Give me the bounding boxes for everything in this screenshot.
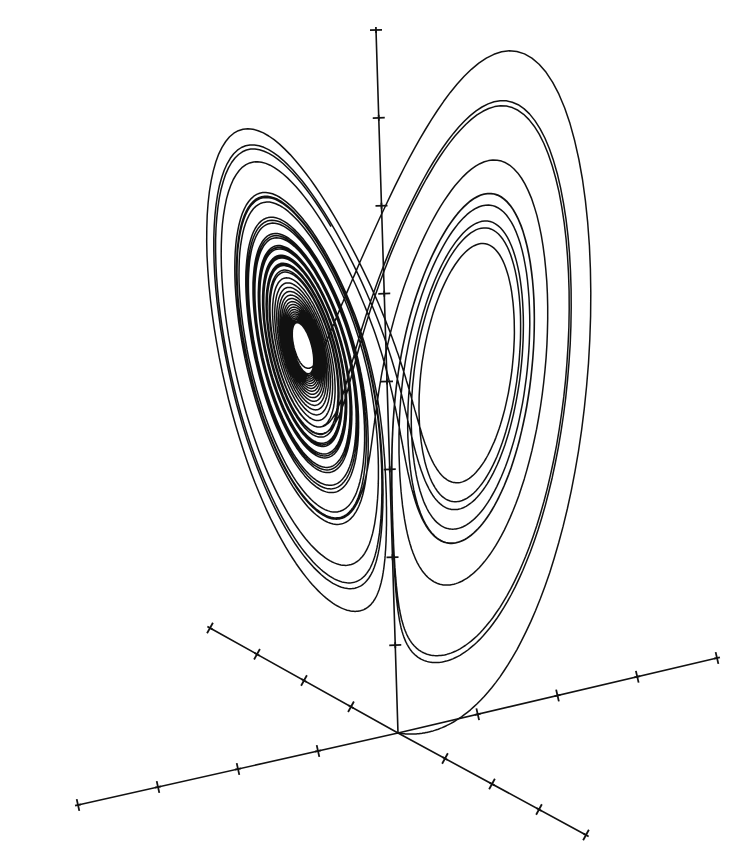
x-axis-negative-tick: [235, 768, 241, 769]
trajectory-path: [207, 51, 591, 734]
attractor-trajectory: [207, 51, 591, 734]
x-axis-negative-tick: [75, 804, 81, 805]
x-axis-positive-tick: [634, 676, 640, 677]
y-axis-negative-tick: [254, 653, 259, 656]
x-axis-positive-tick: [555, 695, 561, 696]
lorenz-attractor-figure: [0, 0, 751, 865]
y-axis-negative-tick: [207, 627, 212, 630]
y-axis-positive-tick: [489, 783, 494, 786]
axes-group: [75, 27, 720, 840]
x-axis-positive-tick: [475, 714, 481, 715]
y-axis-positive-tick: [442, 757, 447, 760]
y-axis-positive-tick: [583, 834, 588, 837]
x-axis-negative-tick: [155, 786, 161, 787]
y-axis-positive-tick: [536, 808, 541, 811]
y-axis-negative-tick: [348, 705, 353, 708]
x-axis-positive-tick: [714, 657, 720, 658]
y-axis-negative-tick: [301, 679, 306, 682]
x-axis-negative-tick: [315, 750, 321, 751]
